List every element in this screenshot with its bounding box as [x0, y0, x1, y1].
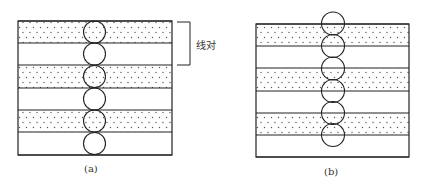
circle-spot	[84, 43, 106, 65]
panel-b-diagram	[256, 12, 409, 157]
line-pair-bracket	[177, 22, 190, 65]
caption-a: (a)	[84, 163, 98, 174]
caption-b: (b)	[324, 166, 338, 177]
circle-spot	[84, 133, 106, 155]
dotted-stripe	[18, 110, 172, 132]
dotted-stripe	[18, 65, 172, 88]
dotted-stripe	[18, 21, 172, 43]
diagram-canvas	[0, 0, 422, 187]
circle-spot	[84, 88, 106, 110]
panel-a-diagram	[18, 21, 190, 155]
line-pair-label: 线对	[196, 37, 216, 52]
